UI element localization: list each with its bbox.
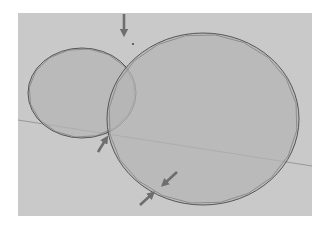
circle-diagram — [0, 0, 331, 230]
large-circle — [107, 33, 299, 205]
stray-dot — [132, 43, 134, 45]
